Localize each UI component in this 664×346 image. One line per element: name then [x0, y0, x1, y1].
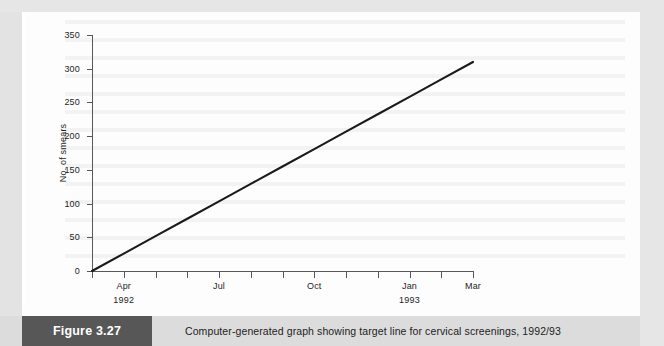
y-tick-label: 350	[64, 30, 80, 40]
plot-area: No. of smears 050100150200250300350 Apr1…	[92, 35, 473, 271]
series-line-target	[92, 35, 474, 273]
x-tick-label: Jan	[402, 281, 417, 291]
figure-caption-text: Computer-generated graph showing target …	[152, 316, 640, 346]
page-top-margin	[0, 0, 664, 12]
y-tick-label: 200	[64, 131, 80, 141]
y-tick-label: 50	[70, 232, 80, 242]
page-sheet: No. of smears 050100150200250300350 Apr1…	[0, 0, 664, 346]
target-line-path	[92, 62, 473, 271]
y-tick-label: 100	[64, 199, 80, 209]
caption-left-margin	[0, 316, 22, 346]
y-tick-label: 300	[64, 64, 80, 74]
x-tick-label: Apr	[116, 281, 131, 291]
figure-caption-strip: Figure 3.27 Computer-generated graph sho…	[22, 316, 640, 346]
page-right-margin	[640, 0, 664, 346]
x-tick-label: Jul	[213, 281, 225, 291]
figure-number-badge: Figure 3.27	[22, 316, 152, 346]
y-tick-label: 0	[75, 266, 80, 276]
panel-bottom-filler	[22, 304, 640, 316]
y-tick-label: 250	[64, 97, 80, 107]
x-tick-label: Oct	[307, 281, 322, 291]
x-tick-sublabel: 1992	[113, 295, 134, 305]
x-tick-label: Mar	[465, 281, 481, 291]
y-tick-label: 150	[64, 165, 80, 175]
x-tick-sublabel: 1993	[399, 295, 420, 305]
